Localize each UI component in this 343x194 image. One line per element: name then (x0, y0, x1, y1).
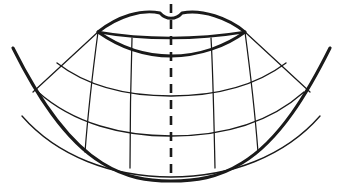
lip-grid-svg (0, 0, 343, 194)
lip-grid-diagram (0, 0, 343, 194)
